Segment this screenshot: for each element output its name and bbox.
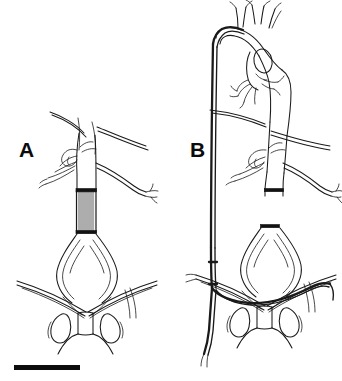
panel-b-artwork xyxy=(186,0,342,367)
panel-b-aorta-stump xyxy=(265,189,284,197)
panel-a-artwork xyxy=(17,112,158,354)
panel-a-branch-cluster xyxy=(39,142,96,188)
panel-label-a: A xyxy=(19,139,34,160)
panel-a-aneurysm-sac xyxy=(57,234,118,303)
scale-bar xyxy=(14,365,80,370)
panel-a-pelvic-bone xyxy=(48,312,123,354)
panel-b-pelvic-bone xyxy=(227,306,302,348)
panel-a-visceral-branches xyxy=(50,112,148,154)
panel-b-aneurysm-sac xyxy=(241,225,302,298)
panel-a-stent-graft xyxy=(76,189,97,234)
panel-b-arch-branches xyxy=(230,0,281,28)
anatomical-line-drawing xyxy=(0,0,342,381)
figure-container: A B xyxy=(0,0,342,381)
panel-b-renal-artery-right xyxy=(283,163,342,203)
panel-label-b: B xyxy=(190,139,205,160)
panel-b-arch-inner-detail xyxy=(247,47,275,90)
panel-a-renal-artery-right xyxy=(96,163,158,203)
panel-b-branch-cluster-upper xyxy=(230,76,284,108)
panel-b-branch-cluster-renal xyxy=(226,143,285,185)
